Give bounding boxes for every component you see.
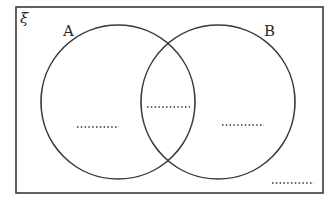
set-b-circle	[141, 25, 295, 179]
set-a-label: A	[62, 22, 74, 40]
set-a-circle	[41, 25, 195, 179]
universal-set-symbol: ξ	[20, 9, 29, 27]
set-b-label: B	[264, 22, 275, 40]
venn-diagram: ξ A B	[0, 0, 336, 211]
